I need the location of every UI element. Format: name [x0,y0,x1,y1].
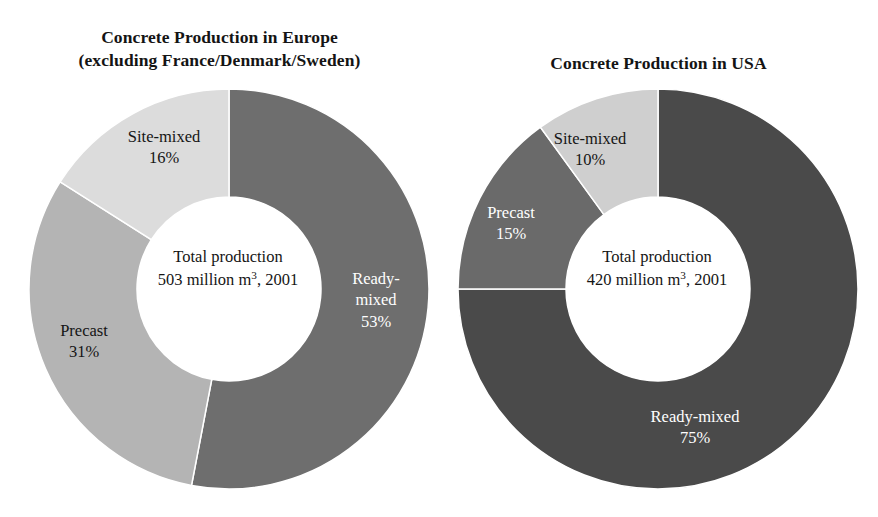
slice-label-precast-usa: Precast 15% [455,202,567,245]
slice-label-ready-mixed-europe: Ready- mixed 53% [330,268,422,332]
total-production-value-usa-suffix: , 2001 [686,270,727,289]
figure-canvas: Concrete Production in Europe (excluding… [0,0,878,517]
slice-label-ready-mixed-usa: Ready-mixed 75% [607,406,783,449]
slice-label-site-mixed-usa: Site-mixed 10% [525,128,655,171]
chart-title-usa-line1: Concrete Production in USA [439,52,878,75]
chart-title-europe: Concrete Production in Europe (excluding… [0,26,439,72]
total-production-value-usa: 420 million m3, 2001 [547,269,767,292]
chart-panel-usa: Concrete Production in USA Total product… [439,0,878,517]
slice-label-site-mixed-europe: Site-mixed 16% [104,126,224,169]
chart-panel-europe: Concrete Production in Europe (excluding… [0,0,439,517]
chart-title-europe-line1: Concrete Production in Europe [0,26,439,49]
donut-center-text-usa: Total production 420 million m3, 2001 [547,246,767,292]
total-production-value-usa-prefix: 420 million m [587,270,681,289]
chart-title-usa: Concrete Production in USA [439,52,878,75]
total-production-value-europe: 503 million m3, 2001 [118,269,338,292]
total-production-value-europe-suffix: , 2001 [257,270,298,289]
total-production-label-usa: Total production [547,246,767,269]
slice-label-precast-europe: Precast 31% [24,320,144,363]
chart-title-europe-line2: (excluding France/Denmark/Sweden) [0,49,439,72]
donut-center-text-europe: Total production 503 million m3, 2001 [118,246,338,292]
total-production-label-europe: Total production [118,246,338,269]
total-production-value-europe-prefix: 503 million m [158,270,252,289]
